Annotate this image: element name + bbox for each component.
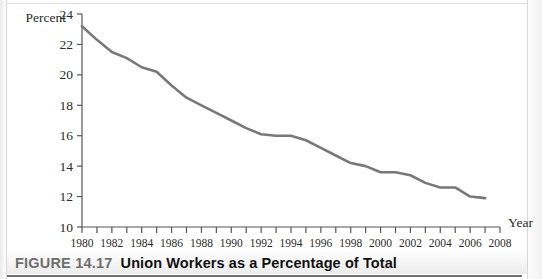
x-tick-label: 2004 [429, 237, 452, 249]
x-tick-label: 2008 [489, 237, 512, 249]
caption-divider [7, 275, 522, 277]
y-tick-label: 18 [60, 98, 74, 113]
y-tick-label: 10 [60, 220, 74, 235]
y-tick-label: 12 [60, 189, 74, 204]
caption-line: FIGURE 14.17 Union Workers as a Percenta… [15, 253, 397, 274]
y-tick-label: 16 [60, 128, 74, 143]
y-axis: 1012141618202224 [60, 7, 83, 235]
x-tick-label: 1986 [160, 237, 183, 249]
figure-title: Union Workers as a Percentage of Total [121, 255, 397, 271]
x-tick-label: 1992 [250, 237, 273, 249]
y-tick-label: 22 [60, 37, 74, 52]
x-axis-label: Year [508, 215, 533, 230]
chart-canvas: 1012141618202224 19801982198419861988199… [0, 0, 542, 250]
x-tick-label: 1990 [220, 237, 243, 249]
y-tick-label: 20 [60, 67, 74, 82]
x-tick-label: 2002 [399, 237, 422, 249]
x-tick-label: 1994 [280, 237, 303, 249]
x-tick-label: 1996 [309, 237, 332, 249]
y-axis-label: Percent [26, 10, 67, 25]
line-chart: 1012141618202224 19801982198419861988199… [0, 0, 542, 250]
x-axis: 1980198219841986198819901992199419961998… [71, 227, 512, 249]
figure-number: FIGURE 14.17 [15, 255, 113, 271]
x-tick-label: 1984 [130, 237, 153, 249]
x-tick-label: 1998 [339, 237, 362, 249]
figure-caption: FIGURE 14.17 Union Workers as a Percenta… [7, 252, 527, 279]
book-page: 1012141618202224 19801982198419861988199… [0, 0, 542, 279]
y-tick-label: 14 [60, 159, 74, 174]
data-series-union-percentage [82, 26, 485, 198]
x-tick-label: 1982 [100, 237, 123, 249]
x-tick-label: 1988 [190, 237, 213, 249]
series-line [82, 26, 485, 198]
x-tick-label: 1980 [71, 237, 94, 249]
x-tick-label: 2006 [459, 237, 482, 249]
x-tick-label: 2000 [369, 237, 392, 249]
